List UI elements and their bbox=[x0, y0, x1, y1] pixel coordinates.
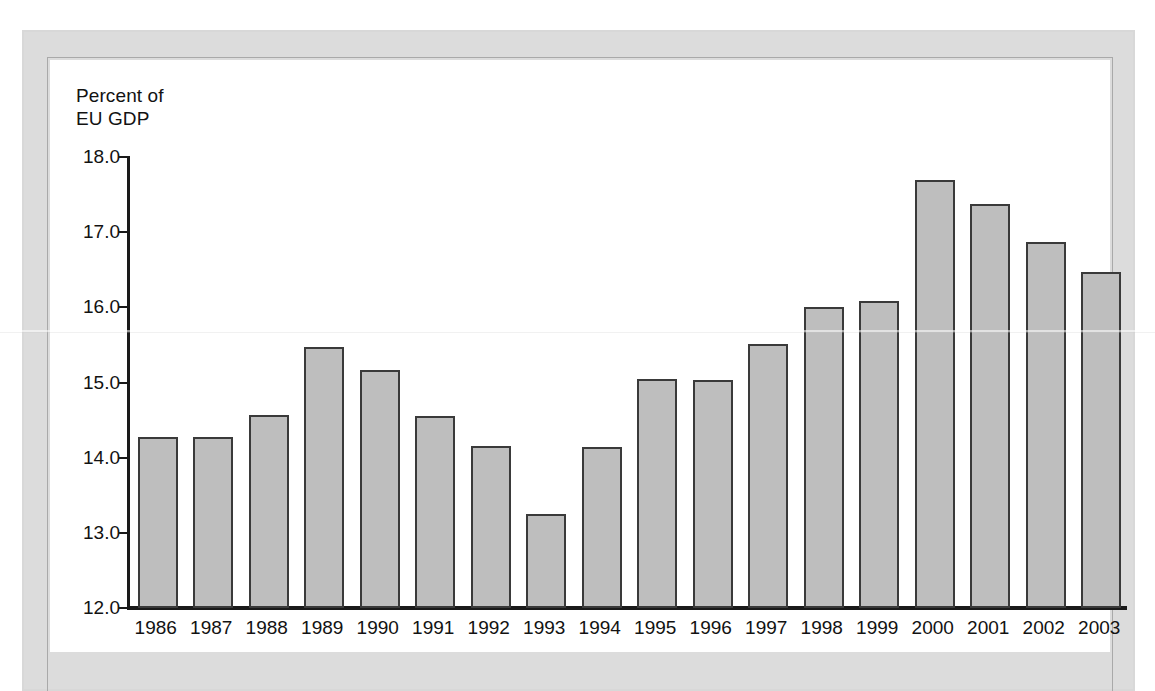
bar bbox=[415, 416, 455, 608]
bar-chart: Percent of EU GDP 12.013.014.015.016.017… bbox=[0, 0, 1155, 691]
x-tick-label: 1986 bbox=[128, 617, 184, 639]
y-tick-mark bbox=[118, 382, 128, 384]
x-tick-label: 1992 bbox=[461, 617, 517, 639]
x-tick-label: 2000 bbox=[905, 617, 961, 639]
bar bbox=[748, 344, 788, 608]
bar bbox=[1026, 242, 1066, 608]
y-tick-label: 17.0 bbox=[58, 221, 120, 243]
bar bbox=[693, 380, 733, 608]
bar bbox=[360, 370, 400, 608]
y-tick-mark bbox=[118, 231, 128, 233]
x-tick-label: 1988 bbox=[239, 617, 295, 639]
bar bbox=[915, 180, 955, 608]
y-tick-mark bbox=[118, 457, 128, 459]
x-tick-label: 1998 bbox=[794, 617, 850, 639]
x-tick-label: 1989 bbox=[295, 617, 351, 639]
bar bbox=[304, 347, 344, 608]
y-tick-mark bbox=[118, 306, 128, 308]
bar bbox=[637, 379, 677, 608]
y-tick-label: 18.0 bbox=[58, 146, 120, 168]
x-tick-label: 2001 bbox=[961, 617, 1017, 639]
bar bbox=[804, 307, 844, 608]
x-tick-label: 2002 bbox=[1016, 617, 1072, 639]
y-tick-mark bbox=[118, 156, 128, 158]
bar bbox=[582, 447, 622, 608]
bar bbox=[193, 437, 233, 608]
y-tick-label: 15.0 bbox=[58, 372, 120, 394]
y-tick-mark bbox=[118, 532, 128, 534]
scanned-page: Percent of EU GDP 12.013.014.015.016.017… bbox=[0, 0, 1155, 691]
x-tick-label: 2003 bbox=[1072, 617, 1128, 639]
y-tick-label: 13.0 bbox=[58, 522, 120, 544]
x-tick-label: 1993 bbox=[517, 617, 573, 639]
x-tick-label: 1999 bbox=[850, 617, 906, 639]
x-tick-label: 1997 bbox=[739, 617, 795, 639]
bar bbox=[249, 415, 289, 608]
x-tick-label: 1987 bbox=[184, 617, 240, 639]
x-tick-label: 1991 bbox=[406, 617, 462, 639]
x-tick-label: 1996 bbox=[683, 617, 739, 639]
bar bbox=[1081, 272, 1121, 608]
x-tick-label: 1995 bbox=[628, 617, 684, 639]
bar bbox=[526, 514, 566, 608]
x-tick-label: 1990 bbox=[350, 617, 406, 639]
y-tick-mark bbox=[118, 607, 128, 609]
y-tick-label: 12.0 bbox=[58, 597, 120, 619]
bar bbox=[970, 204, 1010, 608]
x-tick-label: 1994 bbox=[572, 617, 628, 639]
bar bbox=[138, 437, 178, 608]
y-tick-label: 16.0 bbox=[58, 296, 120, 318]
y-axis-title: Percent of EU GDP bbox=[76, 84, 164, 130]
y-tick-label: 14.0 bbox=[58, 447, 120, 469]
bar bbox=[859, 301, 899, 608]
bar bbox=[471, 446, 511, 608]
